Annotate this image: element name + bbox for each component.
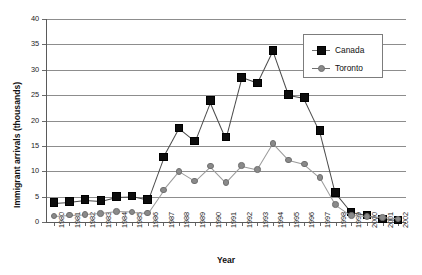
data-point[interactable] [285,157,292,164]
data-point[interactable] [316,126,325,135]
y-tick-label: 10 [17,167,39,175]
x-tick-label: 1988 [182,212,191,228]
x-tick-label: 1992 [245,212,254,228]
data-point[interactable] [379,214,386,221]
data-point[interactable] [301,161,308,168]
data-point[interactable] [160,187,167,194]
series-line-segment [319,131,336,193]
series-line-segment [226,77,243,137]
circle-marker-icon [318,65,325,72]
x-tick-label: 1987 [167,212,176,228]
data-point[interactable] [222,133,231,142]
x-tick-label: 1995 [292,212,301,228]
legend-line-canada [312,50,330,51]
y-tick-label: 35 [17,40,39,48]
data-point[interactable] [50,198,59,207]
x-tick-label: 1991 [229,212,238,228]
y-tick-label: 15 [17,142,39,150]
y-tick-label: 0 [17,218,39,226]
data-point[interactable] [191,178,198,185]
data-point[interactable] [253,79,262,88]
x-axis-title: Year [46,255,406,265]
data-point[interactable] [128,192,137,201]
x-tick-label: 1989 [198,212,207,228]
data-point[interactable] [223,179,230,186]
x-tick-label: 1996 [307,212,316,228]
square-marker-icon [317,46,326,55]
data-point[interactable] [176,168,183,175]
legend-label-toronto: Toronto [335,63,363,73]
data-point[interactable] [81,195,90,204]
x-tick-label: 1986 [151,212,160,228]
gridline [46,121,406,122]
chart-container: Immigrant arrivals (thousands) Year 0510… [0,0,422,275]
y-tick-label: 25 [17,91,39,99]
legend-item-toronto[interactable]: Toronto [312,63,363,73]
x-axis-line [46,222,406,223]
data-point[interactable] [364,213,371,220]
x-tick-label: 2002 [401,212,410,228]
data-point[interactable] [317,174,324,181]
x-tick-label: 1985 [135,212,144,228]
data-point[interactable] [206,96,215,105]
data-point[interactable] [143,195,152,204]
data-point[interactable] [254,166,261,173]
gridline [46,171,406,172]
data-point[interactable] [284,90,293,99]
data-point[interactable] [190,137,199,146]
data-point[interactable] [207,163,214,170]
data-point[interactable] [97,210,104,217]
x-tick-label: 1990 [214,212,223,228]
data-point[interactable] [348,212,355,219]
y-tick-label: 5 [17,193,39,201]
data-point[interactable] [300,93,309,102]
data-point[interactable] [113,208,120,215]
x-tick-label: 1984 [120,212,129,228]
data-point[interactable] [238,162,245,169]
y-axis-line [46,19,47,222]
data-point[interactable] [82,211,89,218]
data-point[interactable] [332,201,339,208]
legend-item-canada[interactable]: Canada [312,45,364,55]
data-point[interactable] [144,210,151,217]
data-point[interactable] [66,212,73,219]
y-tick-label: 40 [17,15,39,23]
data-point[interactable] [175,124,184,133]
y-tick-label: 20 [17,117,39,125]
data-point[interactable] [331,188,340,197]
x-tick-label: 1983 [104,212,113,228]
data-point[interactable] [269,46,278,55]
gridline [46,95,406,96]
x-tick-label: 1993 [261,212,270,228]
x-tick-label: 1994 [276,212,285,228]
gridline [46,146,406,147]
data-point[interactable] [270,140,277,147]
chart-legend: Canada Toronto [303,34,383,78]
legend-line-toronto [312,68,330,69]
data-point[interactable] [65,197,74,206]
x-tick-label: 1997 [323,212,332,228]
data-point[interactable] [97,196,106,205]
legend-label-canada: Canada [335,45,364,55]
series-line-segment [272,50,289,94]
data-point[interactable] [159,153,168,162]
y-tick-label: 30 [17,66,39,74]
data-point[interactable] [237,73,246,82]
data-point[interactable] [112,192,121,201]
gridline [46,19,406,20]
